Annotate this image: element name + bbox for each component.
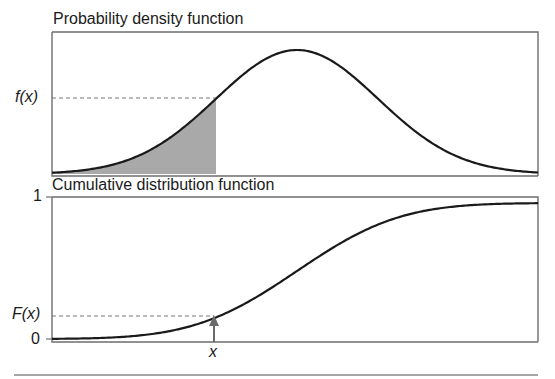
cdf-frame (52, 197, 538, 342)
pdf-curve (52, 50, 538, 173)
cdf-curve (52, 203, 538, 339)
chart-canvas (0, 0, 555, 379)
pdf-frame (52, 32, 538, 176)
pdf-shaded-area (52, 99, 216, 174)
